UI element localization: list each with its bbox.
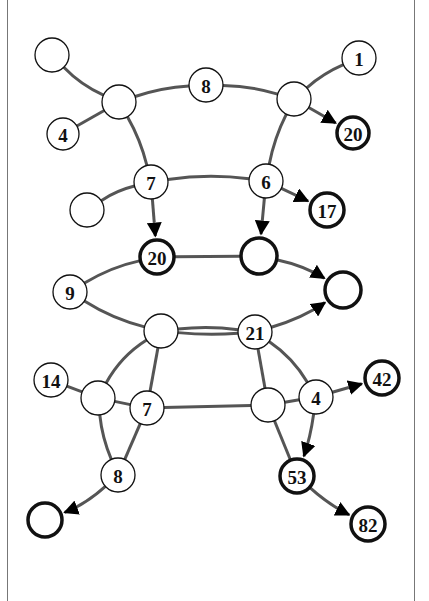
edge xyxy=(168,176,249,179)
edge xyxy=(223,85,278,94)
graph-node xyxy=(144,314,178,348)
graph-node xyxy=(325,272,361,308)
graph-node xyxy=(102,85,136,119)
node-circle xyxy=(144,314,178,348)
graph-node: 9 xyxy=(53,275,87,309)
node-label: 7 xyxy=(146,173,156,194)
graph-node xyxy=(70,193,104,227)
edge xyxy=(100,415,112,459)
directed-edge xyxy=(152,199,155,236)
graph-node: 8 xyxy=(189,68,223,102)
node-circle-bold xyxy=(28,503,62,537)
graph-node: 7 xyxy=(134,165,168,199)
edge xyxy=(150,348,158,392)
edge-layer xyxy=(64,65,362,515)
node-label: 20 xyxy=(344,124,363,145)
edge xyxy=(258,349,265,389)
node-circle xyxy=(102,85,136,119)
node-label: 82 xyxy=(359,515,378,536)
graph-node xyxy=(35,38,69,72)
node-circle xyxy=(35,38,69,72)
node-label: 42 xyxy=(373,369,392,390)
node-label: 6 xyxy=(261,172,271,193)
edge xyxy=(178,333,238,335)
graph-node xyxy=(241,238,277,274)
node-label: 4 xyxy=(58,125,68,146)
node-circle xyxy=(81,381,115,415)
graph-node xyxy=(81,381,115,415)
edge xyxy=(64,67,104,95)
edge xyxy=(115,401,131,404)
edge xyxy=(307,65,344,88)
edge xyxy=(269,342,307,383)
node-circle xyxy=(277,82,311,116)
node-circle xyxy=(70,193,104,227)
directed-graph: 4812076172092114744285382 xyxy=(0,0,429,601)
graph-node: 1 xyxy=(342,41,376,75)
edge xyxy=(125,424,140,460)
node-layer: 4812076172092114744285382 xyxy=(28,38,399,541)
node-label: 1 xyxy=(354,49,364,70)
edge xyxy=(174,256,241,257)
edge xyxy=(106,340,146,383)
directed-edge xyxy=(261,198,264,234)
node-label: 8 xyxy=(201,76,211,97)
graph-node xyxy=(28,503,62,537)
directed-edge xyxy=(65,486,106,512)
edge xyxy=(178,327,238,329)
edge xyxy=(84,301,144,327)
node-label: 21 xyxy=(246,323,265,344)
directed-edge xyxy=(332,384,361,392)
graph-node: 4 xyxy=(299,380,333,414)
edge xyxy=(269,114,286,164)
graph-node: 8 xyxy=(101,458,135,492)
node-label: 53 xyxy=(288,467,307,488)
directed-edge xyxy=(310,487,350,514)
graph-node: 14 xyxy=(34,363,68,397)
graph-node: 7 xyxy=(130,391,164,425)
directed-edge xyxy=(304,414,314,456)
graph-node: 17 xyxy=(310,193,344,227)
edge xyxy=(127,117,146,166)
directed-edge xyxy=(277,260,325,279)
graph-node: 6 xyxy=(249,164,283,198)
node-label: 20 xyxy=(148,248,167,269)
graph-node xyxy=(251,388,285,422)
edge xyxy=(164,405,251,407)
node-label: 9 xyxy=(65,283,75,304)
node-circle-bold xyxy=(241,238,277,274)
node-label: 8 xyxy=(113,466,123,487)
graph-node: 20 xyxy=(337,117,369,149)
edge xyxy=(285,400,299,402)
graph-node: 21 xyxy=(238,315,272,349)
graph-node: 42 xyxy=(365,361,399,395)
edge xyxy=(101,186,134,201)
node-circle-bold xyxy=(325,272,361,308)
node-circle xyxy=(251,388,285,422)
node-label: 14 xyxy=(42,371,62,392)
graph-node xyxy=(277,82,311,116)
graph-node: 53 xyxy=(280,459,314,493)
node-label: 17 xyxy=(318,201,338,222)
graph-node: 82 xyxy=(351,507,385,541)
graph-node: 20 xyxy=(140,240,174,274)
edge xyxy=(135,86,189,97)
edge xyxy=(77,110,104,126)
directed-edge xyxy=(309,107,336,123)
node-label: 7 xyxy=(142,399,152,420)
directed-edge xyxy=(281,188,308,201)
directed-edge xyxy=(271,303,325,328)
graph-node: 4 xyxy=(47,118,79,150)
edge xyxy=(67,386,82,392)
node-label: 4 xyxy=(311,388,321,409)
edge xyxy=(274,421,290,461)
edge xyxy=(84,261,140,283)
